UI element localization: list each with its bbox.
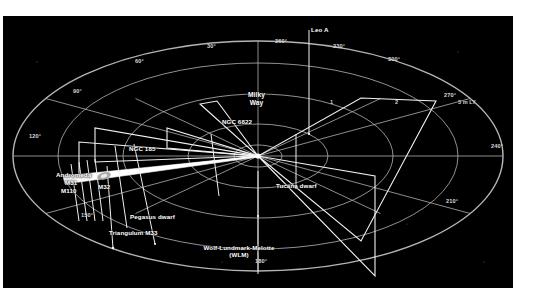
angle-label-60: 60° bbox=[135, 58, 144, 64]
label-wlm: Wolf-Lundmark-Melotte (WLM) bbox=[180, 244, 298, 259]
label-triangulum-m33: Triangulum M33 bbox=[109, 229, 158, 236]
angle-label-300: 300° bbox=[388, 56, 400, 62]
label-ngc-6822: NGC 6822 bbox=[222, 118, 252, 125]
label-tucana-dwarf: Tucana dwarf bbox=[276, 182, 317, 189]
radial-label-3-mly: 3 m LY bbox=[458, 99, 476, 105]
angle-label-150: 150° bbox=[81, 212, 93, 218]
label-milky-way-line1: Milky bbox=[248, 91, 265, 99]
angle-label-180: 180° bbox=[255, 258, 267, 264]
plane-tucana-upper bbox=[258, 98, 436, 241]
angle-label-330: 330° bbox=[333, 43, 345, 49]
label-milky-way: Milky Way bbox=[248, 91, 265, 106]
figure-canvas: 30° 60° 90° 120° 150° 180° 210° 240° 270… bbox=[0, 0, 534, 302]
marker-pegasus bbox=[154, 243, 156, 245]
angle-label-240: 240° bbox=[491, 143, 503, 149]
label-m32: M32 bbox=[98, 183, 110, 190]
angle-label-30: 30° bbox=[207, 43, 216, 49]
marker-milky-way bbox=[255, 153, 260, 158]
angle-label-360: 360° bbox=[275, 38, 287, 44]
radial-label-1: 1 bbox=[330, 99, 333, 105]
marker-leo-a bbox=[308, 133, 310, 135]
label-pegasus-dwarf: Pegasus dwarf bbox=[130, 213, 175, 220]
label-milky-way-line2: Way bbox=[248, 99, 265, 107]
star-map-panel: 30° 60° 90° 120° 150° 180° 210° 240° 270… bbox=[3, 16, 513, 288]
angle-label-210: 210° bbox=[446, 198, 458, 204]
spoke-330 bbox=[258, 99, 381, 157]
stem-ngc185 bbox=[115, 146, 127, 228]
angle-label-120: 120° bbox=[29, 133, 41, 139]
label-m31: M31 bbox=[65, 179, 77, 186]
marker-triangulum bbox=[112, 247, 114, 249]
angle-label-90: 90° bbox=[73, 88, 82, 94]
label-wlm-line2: (WLM) bbox=[180, 251, 298, 258]
label-m110: M110 bbox=[61, 187, 77, 194]
label-leo-a: Leo A bbox=[311, 26, 328, 33]
label-andromeda: Andromeda bbox=[56, 171, 91, 178]
label-ngc-185: NGC 185 bbox=[129, 145, 156, 152]
marker-wlm bbox=[257, 215, 259, 217]
angle-label-270: 270° bbox=[444, 92, 456, 98]
radial-label-2: 2 bbox=[395, 99, 398, 105]
